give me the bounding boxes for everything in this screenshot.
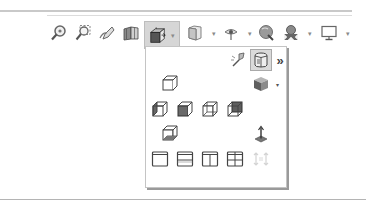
zoom-area-icon	[74, 24, 92, 42]
four-view-icon	[226, 150, 244, 168]
two-view-horizontal-icon	[176, 150, 194, 168]
top-view-button[interactable]	[160, 73, 180, 93]
monitor-icon	[320, 24, 338, 42]
view-settings-button[interactable]	[318, 21, 340, 45]
scene-icon	[282, 24, 300, 42]
chevron-right-double-icon: »	[276, 53, 283, 68]
more-views-button[interactable]: »	[273, 50, 287, 70]
normal-to-view-icon	[252, 125, 270, 143]
view-orientation-caret[interactable]: ▾	[171, 32, 175, 39]
bottom-view-icon	[161, 124, 179, 142]
single-view-button[interactable]	[150, 149, 170, 169]
pin-view-button[interactable]	[228, 50, 248, 70]
appearance-icon	[258, 24, 276, 42]
two-view-vertical-icon	[201, 150, 219, 168]
right-view-icon	[201, 100, 219, 118]
zoom-to-area-button[interactable]	[72, 21, 94, 45]
apply-scene-caret[interactable]: ▾	[308, 30, 312, 37]
edit-appearance-button[interactable]	[256, 21, 278, 45]
normal-to-button[interactable]	[250, 49, 272, 71]
front-view-icon	[176, 100, 194, 118]
link-views-button	[251, 149, 271, 169]
previous-view-button[interactable]	[96, 21, 118, 45]
normal-to-view-button[interactable]	[251, 123, 271, 145]
link-views-icon	[252, 150, 270, 168]
display-style-icon	[186, 24, 204, 42]
view-orientation-button[interactable]: ▾	[144, 21, 180, 49]
top-divider	[0, 10, 352, 12]
view-orientation-icon	[149, 26, 167, 46]
isometric-view-button[interactable]	[251, 74, 271, 94]
section-view-button[interactable]	[120, 21, 142, 45]
zoom-to-fit-button[interactable]	[48, 21, 70, 45]
hide-show-items-button[interactable]	[220, 21, 242, 45]
bottom-view-button[interactable]	[160, 123, 180, 143]
toolbar-divider	[47, 15, 352, 16]
heads-up-view-toolbar: ▾ ▾ ▾	[48, 20, 354, 46]
isometric-caret[interactable]: ▾	[272, 77, 282, 91]
single-view-icon	[151, 150, 169, 168]
hide-show-caret[interactable]: ▾	[248, 30, 252, 37]
bottom-divider	[0, 199, 366, 200]
pin-view-icon	[229, 51, 247, 69]
two-view-vertical-button[interactable]	[200, 149, 220, 169]
two-view-horizontal-button[interactable]	[175, 149, 195, 169]
isometric-view-icon	[252, 75, 270, 93]
graphics-area: ▾ ▾ ▾	[0, 0, 366, 204]
magnifier-icon	[50, 24, 68, 42]
four-view-button[interactable]	[225, 149, 245, 169]
left-view-icon	[151, 100, 169, 118]
previous-view-icon	[98, 24, 116, 42]
back-view-icon	[226, 100, 244, 118]
top-view-icon	[161, 74, 179, 92]
view-settings-caret[interactable]: ▾	[346, 30, 350, 37]
section-view-icon	[122, 24, 140, 42]
display-style-caret[interactable]: ▾	[212, 30, 216, 37]
front-view-button[interactable]	[175, 99, 195, 119]
view-orientation-panel: » ▾	[145, 46, 287, 188]
left-view-button[interactable]	[150, 99, 170, 119]
normal-to-icon	[252, 51, 270, 69]
right-view-button[interactable]	[200, 99, 220, 119]
apply-scene-button[interactable]	[280, 21, 302, 45]
eye-icon	[222, 24, 240, 42]
display-style-button[interactable]	[184, 21, 206, 45]
back-view-button[interactable]	[225, 99, 245, 119]
